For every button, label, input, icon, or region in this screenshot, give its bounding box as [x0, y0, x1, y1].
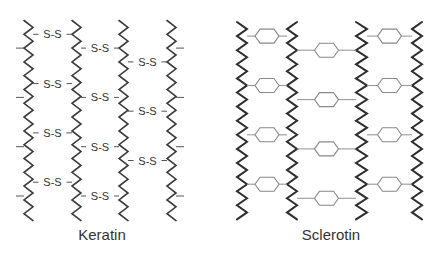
ring-bridge-3-4-3	[367, 128, 412, 142]
keratin-chain-2	[72, 21, 81, 221]
disulfide-bridge-1-2-2: S-S	[33, 78, 72, 90]
disulfide-label: S-S	[43, 127, 61, 139]
disulfide-label: S-S	[43, 176, 61, 188]
keratin-panel: S-SS-SS-SS-SS-SS-SS-SS-SS-SS-SS-S	[16, 21, 184, 221]
aromatic-ring-icon	[255, 177, 279, 191]
ring-bridge-2-3-2	[297, 93, 356, 107]
disulfide-label: S-S	[138, 105, 156, 117]
keratin-label: Keratin	[78, 226, 126, 243]
aromatic-ring-icon	[315, 191, 339, 205]
ring-bridge-2-3-1	[297, 43, 356, 57]
disulfide-label: S-S	[91, 91, 109, 103]
aromatic-ring-icon	[378, 128, 402, 142]
disulfide-label: S-S	[138, 155, 156, 167]
ring-bridge-1-2-1	[247, 29, 287, 43]
disulfide-bridge-1-2-4: S-S	[33, 176, 72, 188]
disulfide-bridge-2-3-3: S-S	[81, 141, 119, 153]
polymer-crosslink-diagram: S-SS-SS-SS-SS-SS-SS-SS-SS-SS-SS-S	[0, 0, 442, 258]
sclerotin-chain-2	[287, 22, 297, 219]
sclerotin-chain-1	[237, 22, 247, 219]
ring-bridge-2-3-4	[297, 191, 356, 205]
ring-bridge-3-4-4	[367, 177, 412, 191]
disulfide-label: S-S	[91, 141, 109, 153]
ring-bridge-3-4-1	[367, 29, 412, 43]
disulfide-label: S-S	[91, 190, 109, 202]
keratin-chain-1	[24, 21, 33, 221]
aromatic-ring-icon	[255, 79, 279, 93]
aromatic-ring-icon	[315, 93, 339, 107]
disulfide-label: S-S	[138, 56, 156, 68]
disulfide-label: S-S	[43, 78, 61, 90]
sclerotin-label: Sclerotin	[302, 226, 360, 243]
ring-bridge-3-4-2	[367, 79, 412, 93]
aromatic-ring-icon	[255, 128, 279, 142]
disulfide-bridge-3-4-2: S-S	[128, 105, 167, 117]
disulfide-label: S-S	[43, 28, 61, 40]
ring-bridge-2-3-3	[297, 142, 356, 156]
disulfide-label: S-S	[91, 42, 109, 54]
sclerotin-chain-4	[412, 22, 422, 219]
aromatic-ring-icon	[315, 142, 339, 156]
aromatic-ring-icon	[315, 43, 339, 57]
aromatic-ring-icon	[378, 79, 402, 93]
disulfide-bridge-2-3-1: S-S	[81, 42, 119, 54]
aromatic-ring-icon	[378, 177, 402, 191]
ring-bridge-1-2-4	[247, 177, 287, 191]
sclerotin-chain-3	[356, 22, 367, 219]
aromatic-ring-icon	[378, 29, 402, 43]
disulfide-bridge-2-3-4: S-S	[81, 190, 119, 202]
disulfide-bridge-3-4-3: S-S	[128, 155, 167, 167]
aromatic-ring-icon	[255, 29, 279, 43]
ring-bridge-1-2-2	[247, 79, 287, 93]
disulfide-bridge-3-4-1: S-S	[128, 56, 167, 68]
keratin-chain-3	[119, 21, 128, 221]
keratin-chain-4	[167, 21, 176, 221]
disulfide-bridge-1-2-3: S-S	[33, 127, 72, 139]
sclerotin-panel	[237, 22, 422, 219]
disulfide-bridge-1-2-1: S-S	[33, 28, 72, 40]
ring-bridge-1-2-3	[247, 128, 287, 142]
disulfide-bridge-2-3-2: S-S	[81, 91, 119, 103]
